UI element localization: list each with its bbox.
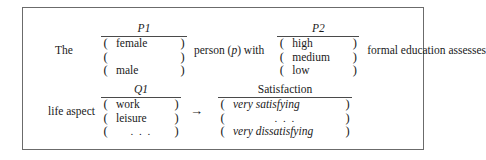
bottom-row-lead-label: life aspect <box>33 105 95 118</box>
close-paren-icon: ) <box>350 51 359 65</box>
choice-row-p2-3: ( low ) <box>277 64 359 78</box>
open-paren-icon: ( <box>101 112 110 126</box>
choice-row-p2-1: ( high ) <box>277 37 359 51</box>
top-row-middle-label: person (p) with <box>187 44 271 56</box>
open-paren-icon: ( <box>277 64 286 78</box>
middle-text-before: person ( <box>194 44 231 56</box>
choice-row-p2-2: ( medium ) <box>277 51 359 65</box>
choice-row-satisfaction-3: ( very dissatisfying ) <box>218 125 352 139</box>
choice-block-p1: P1 ( female ) ( ) ( male ) <box>101 22 187 78</box>
choice-row-p1-2: ( ) <box>101 51 187 65</box>
choice-header-satisfaction: Satisfaction <box>218 83 352 98</box>
choice-header-p2: P2 <box>277 22 359 37</box>
close-paren-icon: ) <box>178 51 187 65</box>
choice-row-q1-2: ( leisure ) <box>101 112 181 126</box>
right-arrow-icon: → <box>181 103 212 119</box>
open-paren-icon: ( <box>101 51 110 65</box>
choice-option-satisfaction-3: very dissatisfying <box>227 125 343 139</box>
top-row-lead-label: The <box>33 44 95 57</box>
choice-option-satisfaction-2: . . . <box>227 112 343 126</box>
figure-frame: The P1 ( female ) ( ) ( male ) person (p… <box>22 7 424 150</box>
close-paren-icon: ) <box>350 64 359 78</box>
open-paren-icon: ( <box>101 98 110 112</box>
open-paren-icon: ( <box>101 64 110 78</box>
choice-row-p1-3: ( male ) <box>101 64 187 78</box>
choice-option-p2-3: low <box>286 64 350 78</box>
choice-block-q1: Q1 ( work ) ( leisure ) ( . . . ) <box>101 83 181 139</box>
open-paren-icon: ( <box>218 98 227 112</box>
middle-text-after: ) with <box>237 44 264 56</box>
top-row-tail-label: formal education assesses <box>359 44 486 57</box>
formula-row-top: The P1 ( female ) ( ) ( male ) person (p… <box>33 22 486 78</box>
open-paren-icon: ( <box>218 125 227 139</box>
choice-row-p1-1: ( female ) <box>101 37 187 51</box>
open-paren-icon: ( <box>218 112 227 126</box>
choice-block-p2: P2 ( high ) ( medium ) ( low ) <box>277 22 359 78</box>
close-paren-icon: ) <box>343 112 352 126</box>
choice-row-satisfaction-1: ( very satisfying ) <box>218 98 352 112</box>
choice-option-q1-2: leisure <box>110 112 172 126</box>
choice-row-q1-1: ( work ) <box>101 98 181 112</box>
choice-header-q1: Q1 <box>101 83 181 98</box>
choice-header-p1: P1 <box>101 22 187 37</box>
choice-block-satisfaction: Satisfaction ( very satisfying ) ( . . .… <box>218 83 352 139</box>
choice-row-satisfaction-2: ( . . . ) <box>218 112 352 126</box>
close-paren-icon: ) <box>178 64 187 78</box>
open-paren-icon: ( <box>277 51 286 65</box>
formula-row-bottom: life aspect Q1 ( work ) ( leisure ) ( . … <box>33 83 352 139</box>
close-paren-icon: ) <box>343 98 352 112</box>
choice-row-q1-3: ( . . . ) <box>101 125 181 139</box>
choice-option-q1-1: work <box>110 98 172 112</box>
open-paren-icon: ( <box>101 37 110 51</box>
choice-option-satisfaction-1: very satisfying <box>227 98 343 112</box>
choice-option-p1-1: female <box>110 37 178 51</box>
close-paren-icon: ) <box>343 125 352 139</box>
close-paren-icon: ) <box>172 112 181 126</box>
open-paren-icon: ( <box>277 37 286 51</box>
choice-option-p1-3: male <box>110 64 178 78</box>
choice-option-p2-2: medium <box>286 51 350 65</box>
close-paren-icon: ) <box>172 98 181 112</box>
close-paren-icon: ) <box>172 125 181 139</box>
close-paren-icon: ) <box>178 37 187 51</box>
choice-option-p2-1: high <box>286 37 350 51</box>
choice-option-q1-3: . . . <box>110 125 172 139</box>
close-paren-icon: ) <box>350 37 359 51</box>
open-paren-icon: ( <box>101 125 110 139</box>
